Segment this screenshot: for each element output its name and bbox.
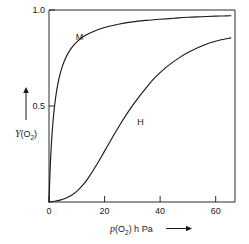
y-tick-label-1point0: 1.0 xyxy=(32,5,45,15)
curve-label-hemoglobin: H xyxy=(137,117,144,127)
y-axis-ticks xyxy=(49,10,55,106)
chart-figure: 0 20 40 60 0.5 1.0 Y(O2) p(O2) h Pa xyxy=(0,0,249,244)
x-tick-label-40: 40 xyxy=(155,206,165,216)
oxygen-binding-curve-chart: 0 20 40 60 0.5 1.0 Y(O2) p(O2) h Pa xyxy=(0,0,249,244)
y-axis-title-paren-close: ) xyxy=(34,129,37,139)
x-axis-tick-labels: 0 20 40 60 xyxy=(46,206,220,216)
x-tick-label-0: 0 xyxy=(46,206,51,216)
curve-myoglobin xyxy=(49,16,231,202)
y-axis-tick-labels: 0.5 1.0 xyxy=(32,5,45,111)
curve-label-myoglobin: M xyxy=(76,32,84,42)
x-axis-title-group: p(O2) h Pa xyxy=(109,223,192,236)
x-tick-label-20: 20 xyxy=(100,206,110,216)
x-axis-right-arrow-icon xyxy=(186,226,192,232)
x-axis-title-paren-open: (O xyxy=(115,224,125,234)
x-tick-label-60: 60 xyxy=(211,206,221,216)
y-axis-title: Y(O2) xyxy=(15,128,37,141)
y-axis-title-group: Y(O2) xyxy=(15,87,37,141)
x-axis-title: p(O2) h Pa xyxy=(109,223,153,236)
data-curves xyxy=(49,16,231,202)
y-tick-label-0point5: 0.5 xyxy=(32,101,45,111)
x-axis-ticks xyxy=(49,196,216,202)
y-axis-up-arrow-icon xyxy=(23,87,29,93)
y-axis-title-paren-open: (O xyxy=(20,129,30,139)
x-axis-title-paren-close: ) h Pa xyxy=(129,224,153,234)
curve-labels: M H xyxy=(76,32,144,127)
